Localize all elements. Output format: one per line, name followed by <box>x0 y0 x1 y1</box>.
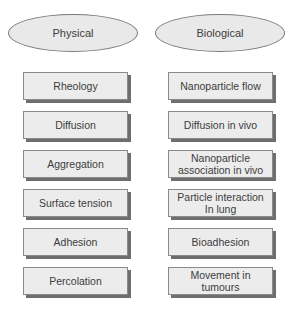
biological-header-ellipse: Biological <box>155 14 285 52</box>
item-label: Adhesion <box>54 236 98 248</box>
item-label: Particle interaction In lung <box>172 191 269 215</box>
physical-header-ellipse: Physical <box>8 14 138 52</box>
item-label: Diffusion in vivo <box>184 119 257 131</box>
item-label: Bioadhesion <box>192 236 250 248</box>
physical-header-label: Physical <box>53 27 94 39</box>
item-label: Percolation <box>49 275 102 287</box>
biological-item-particle-interaction-lung: Particle interaction In lung <box>168 189 273 217</box>
biological-item-diffusion-in-vivo: Diffusion in vivo <box>168 111 273 139</box>
biological-header-label: Biological <box>196 27 243 39</box>
physical-item-percolation: Percolation <box>23 267 128 295</box>
biological-item-nanoparticle-association: Nanoparticle association in vivo <box>168 150 273 178</box>
physical-item-rheology: Rheology <box>23 72 128 100</box>
biological-item-bioadhesion: Bioadhesion <box>168 228 273 256</box>
physical-item-diffusion: Diffusion <box>23 111 128 139</box>
item-label: Nanoparticle flow <box>180 80 261 92</box>
physical-item-surface-tension: Surface tension <box>23 189 128 217</box>
item-label: Rheology <box>53 80 97 92</box>
item-label: Aggregation <box>47 158 104 170</box>
item-label: Surface tension <box>39 197 112 209</box>
item-label: Nanoparticle association in vivo <box>172 152 269 176</box>
item-label: Movement in tumours <box>172 269 269 293</box>
physical-item-adhesion: Adhesion <box>23 228 128 256</box>
biological-item-movement-in-tumours: Movement in tumours <box>168 267 273 295</box>
physical-item-aggregation: Aggregation <box>23 150 128 178</box>
item-label: Diffusion <box>55 119 96 131</box>
biological-item-nanoparticle-flow: Nanoparticle flow <box>168 72 273 100</box>
